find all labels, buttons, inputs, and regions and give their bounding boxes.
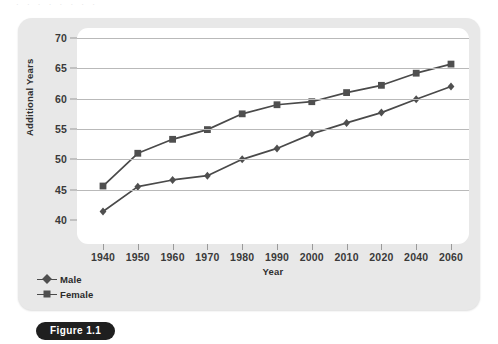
gridline-70 <box>77 38 469 39</box>
x-tick-label-2060: 2060 <box>439 251 463 263</box>
figure-caption-badge: Figure 1.1 <box>36 322 115 340</box>
x-tick-mark-2060 <box>451 244 452 250</box>
data-point-female-2020 <box>378 82 385 89</box>
x-tick-mark-1980 <box>242 244 243 250</box>
legend-swatch-square-icon <box>36 288 58 300</box>
y-tick-label-50: 50 <box>55 153 67 165</box>
y-tick-label-40: 40 <box>55 214 67 226</box>
data-point-male-1940 <box>100 208 107 216</box>
y-tick-label-60: 60 <box>55 93 67 105</box>
y-tick-label-55: 55 <box>55 123 67 135</box>
gridline-50 <box>77 159 469 160</box>
x-tick-label-1990: 1990 <box>265 251 289 263</box>
x-tick-label-2010: 2010 <box>335 251 359 263</box>
x-tick-mark-1960 <box>173 244 174 250</box>
data-point-male-2010 <box>343 119 350 127</box>
data-point-female-2060 <box>448 61 455 68</box>
x-tick-label-2040: 2040 <box>404 251 428 263</box>
data-point-male-2020 <box>378 109 385 117</box>
figure-panel: 40455055606570 Additional Years 19401950… <box>18 18 480 310</box>
data-point-male-2000 <box>308 130 315 138</box>
y-tick-mark-45 <box>70 189 77 190</box>
legend-swatch-diamond-icon <box>36 273 58 285</box>
data-point-male-2060 <box>448 83 455 91</box>
plot-area <box>77 38 469 220</box>
y-tick-mark-40 <box>70 220 77 221</box>
gridline-55 <box>77 129 469 130</box>
y-tick-mark-50 <box>70 159 77 160</box>
x-tick-label-1950: 1950 <box>126 251 150 263</box>
data-point-male-1960 <box>169 176 176 184</box>
x-tick-label-1960: 1960 <box>161 251 185 263</box>
legend-item-male: Male <box>36 272 176 286</box>
gridline-45 <box>77 190 469 191</box>
x-tick-mark-1950 <box>138 244 139 250</box>
data-point-female-1960 <box>169 136 176 143</box>
chart-legend: MaleFemale <box>36 272 176 302</box>
gridline-60 <box>77 99 469 100</box>
gridline-65 <box>77 68 469 69</box>
x-tick-mark-2000 <box>312 244 313 250</box>
x-tick-mark-1990 <box>277 244 278 250</box>
legend-item-female: Female <box>36 287 176 301</box>
y-tick-label-45: 45 <box>55 184 67 196</box>
data-point-male-1990 <box>274 144 281 152</box>
data-point-female-2040 <box>413 70 420 77</box>
plot-card <box>77 28 469 244</box>
y-tick-mark-65 <box>70 68 77 69</box>
x-tick-label-2020: 2020 <box>369 251 393 263</box>
legend-label-male: Male <box>60 274 82 285</box>
x-tick-label-1940: 1940 <box>91 251 115 263</box>
x-tick-label-1970: 1970 <box>195 251 219 263</box>
data-point-female-1940 <box>100 183 107 190</box>
y-tick-mark-55 <box>70 129 77 130</box>
x-tick-mark-1970 <box>207 244 208 250</box>
data-point-female-1980 <box>239 110 246 117</box>
x-tick-mark-2010 <box>347 244 348 250</box>
x-tick-mark-2020 <box>381 244 382 250</box>
y-tick-label-65: 65 <box>55 62 67 74</box>
data-point-female-1990 <box>274 101 281 108</box>
x-tick-mark-1940 <box>103 244 104 250</box>
y-tick-mark-70 <box>70 38 77 39</box>
data-point-female-1950 <box>134 150 141 157</box>
y-tick-mark-60 <box>70 98 77 99</box>
legend-label-female: Female <box>60 289 93 300</box>
series-line-female <box>103 64 451 186</box>
page-top-cutoff-text: · · · · · · · · <box>0 0 498 9</box>
y-axis-title: Additional Years <box>24 59 35 136</box>
legend-marker-diamond-icon <box>42 274 52 284</box>
x-tick-label-2000: 2000 <box>300 251 324 263</box>
y-tick-label-70: 70 <box>55 32 67 44</box>
data-point-female-2010 <box>343 89 350 96</box>
x-tick-mark-2040 <box>416 244 417 250</box>
legend-marker-square-icon <box>44 291 51 298</box>
x-tick-label-1980: 1980 <box>230 251 254 263</box>
data-point-male-1970 <box>204 172 211 180</box>
